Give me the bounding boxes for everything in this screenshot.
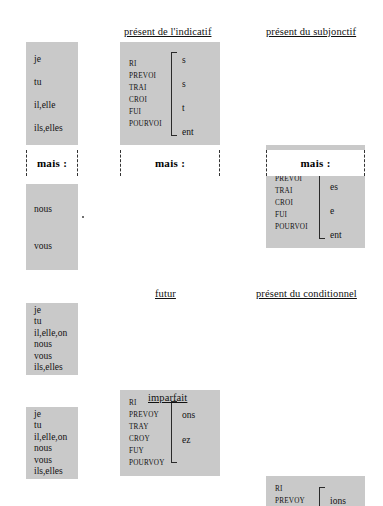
- ending-item: s: [182, 72, 194, 96]
- stem-item: TRAI: [275, 185, 308, 197]
- pronoun-panel-full-futur: je tu il,elle,on nous vous ils,elles: [26, 303, 78, 375]
- ending-list: s s t ent: [182, 48, 194, 144]
- stem-list: RI PREVOI TRAI CROI FUI POURVOI: [129, 58, 162, 130]
- heading-present-subjonctif: présent du subjonctif: [266, 26, 356, 37]
- pronoun-item: nous: [34, 443, 78, 455]
- ending-list: ions iez: [330, 489, 346, 506]
- pronoun-item: ils,elles: [34, 122, 78, 134]
- stem-item: FUY: [129, 445, 165, 457]
- grouping-bracket: [171, 401, 177, 463]
- stem-item: PREVOI: [129, 70, 162, 82]
- pronoun-panel-singular: je tu il,elle ils,elles: [26, 42, 78, 145]
- stem-list: RI PREVOY TRAY CROY FUY POURVOY: [129, 397, 165, 469]
- pronoun-item: il,elle: [34, 99, 78, 111]
- connector-mais-middle: mais :: [120, 150, 220, 176]
- pronoun-item: tu: [34, 316, 78, 328]
- connector-mais-right: mais :: [266, 150, 365, 176]
- ending-list: ons ez: [182, 403, 195, 453]
- ending-item: es: [330, 175, 342, 199]
- pronoun-panel-nous-vous: nous vous: [26, 184, 78, 270]
- stem-item: FUI: [275, 209, 308, 221]
- ending-item: ons: [182, 403, 195, 428]
- stem-item: CROI: [275, 197, 308, 209]
- pronoun-item: vous: [34, 240, 78, 252]
- ending-item: ez: [182, 428, 195, 453]
- heading-futur: futur: [155, 288, 176, 299]
- pronoun-item: tu: [34, 420, 78, 432]
- conjugation-block-subjonctif-plural: RI PREVOY TRAY CROY FUY POURVOY ions iez: [266, 476, 365, 506]
- pronoun-item: nous: [34, 339, 78, 351]
- pronoun-item: vous: [34, 351, 78, 363]
- stray-dot: [82, 216, 84, 218]
- pronoun-item: il,elle,on: [34, 432, 78, 444]
- stem-item: PREVOY: [129, 409, 165, 421]
- heading-present-indicatif: présent de l'indicatif: [124, 26, 211, 37]
- pronoun-item: je: [34, 305, 78, 317]
- stem-item: PREVOY: [275, 495, 311, 506]
- pronoun-item: je: [34, 409, 78, 421]
- pronoun-item: il,elle,on: [34, 328, 78, 340]
- stem-item: FUI: [129, 106, 162, 118]
- stem-item: CROI: [129, 94, 162, 106]
- pronoun-item: vous: [34, 455, 78, 467]
- ending-item: ent: [182, 120, 194, 144]
- stem-item: TRAY: [129, 421, 165, 433]
- stem-item: POURVOI: [129, 118, 162, 130]
- stem-list: RI PREVOY TRAY CROY FUY POURVOY: [275, 483, 311, 506]
- stem-item: CROY: [129, 433, 165, 445]
- stem-item: RI: [129, 58, 162, 70]
- stem-item: TRAI: [129, 82, 162, 94]
- stem-item: POURVOI: [275, 221, 308, 233]
- ending-item: ions: [330, 489, 346, 506]
- grouping-bracket: [171, 52, 177, 136]
- ending-item: ent: [330, 223, 342, 247]
- pronoun-item: je: [34, 53, 78, 65]
- heading-present-conditionnel: présent du conditionnel: [256, 288, 357, 299]
- ending-item: t: [182, 96, 194, 120]
- pronoun-item: ils,elles: [34, 466, 78, 478]
- stem-item: POURVOY: [129, 457, 165, 469]
- conjugation-chart: présent de l'indicatif présent du subjon…: [0, 0, 383, 506]
- pronoun-item: tu: [34, 76, 78, 88]
- grouping-bracket: [319, 487, 325, 506]
- ending-item: s: [182, 48, 194, 72]
- pronoun-panel-full-imparfait: je tu il,elle,on nous vous ils,elles: [26, 407, 78, 479]
- heading-imparfait: imparfait: [148, 392, 187, 403]
- pronoun-item: ils,elles: [34, 362, 78, 374]
- conjugation-block-indicatif-singular: RI PREVOI TRAI CROI FUI POURVOI s s t en…: [120, 42, 220, 145]
- connector-mais-left: mais :: [26, 150, 78, 176]
- ending-item: e: [330, 199, 342, 223]
- pronoun-item: nous: [34, 203, 78, 215]
- stem-item: RI: [275, 483, 311, 495]
